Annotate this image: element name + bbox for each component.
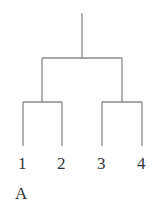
caption-label: A <box>15 185 27 202</box>
leaf-label-4: 4 <box>137 155 146 172</box>
leaf-label-2: 2 <box>57 155 66 172</box>
leaf-label-3: 3 <box>97 155 106 172</box>
dendrogram <box>0 0 161 212</box>
leaf-label-1: 1 <box>18 155 27 172</box>
